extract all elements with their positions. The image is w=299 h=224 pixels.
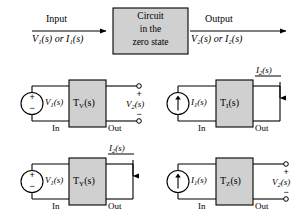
output-minus-sign-tz: −	[284, 188, 289, 197]
output-current-label-ty: I2(s)	[109, 144, 125, 155]
transfer-function-label-tv: TV(s)	[73, 98, 95, 110]
transfer-function-label-tz: TZ(s)	[220, 176, 241, 188]
output-terminal-top-tv	[137, 84, 142, 89]
output-plus-sign-tz: +	[284, 168, 289, 177]
source-label-ty: V1(s)	[45, 176, 63, 187]
output-terminal-bottom-tv	[137, 119, 142, 124]
input-label: Input	[46, 14, 67, 24]
output-terminal-top-tz	[284, 162, 289, 167]
source-minus-sign-tv: −	[30, 104, 35, 113]
out-label-ty: Out	[108, 202, 122, 211]
out-label-tv: Out	[108, 124, 122, 133]
out-label-tz: Out	[255, 202, 269, 211]
circuit-box-line3: zero state	[117, 38, 184, 48]
output-minus-sign-tv: −	[137, 110, 142, 119]
input-variables-label: V₁(s) or I₁(s)	[32, 34, 83, 44]
out-label-ti: Out	[255, 124, 269, 133]
output-label: Output	[205, 14, 233, 24]
transfer-function-label-ti: TI(s)	[220, 98, 239, 110]
circuit-box-line2: in the	[117, 25, 184, 35]
circuit-figure: Circuit in the zero state Input V₁(s) or…	[0, 0, 299, 224]
output-current-label-ti: I2(s)	[256, 66, 272, 77]
output-plus-sign-tv: +	[137, 90, 142, 99]
circuit-box-line1: Circuit	[117, 12, 184, 22]
source-plus-sign-tv: +	[30, 93, 35, 102]
in-label-ty: In	[52, 202, 60, 211]
source-label-ti: I1(s)	[191, 98, 207, 109]
source-label-tv: V1(s)	[45, 98, 63, 109]
source-minus-sign-ty: −	[30, 182, 35, 191]
in-label-ti: In	[198, 124, 206, 133]
output-variables-label: V₂(s) or I₂(s)	[191, 34, 242, 44]
source-plus-sign-ty: +	[30, 171, 35, 180]
output-terminal-bottom-tz	[284, 197, 289, 202]
in-label-tz: In	[198, 202, 206, 211]
in-label-tv: In	[52, 124, 60, 133]
source-label-tz: I1(s)	[191, 176, 207, 187]
transfer-function-label-ty: TY(s)	[73, 176, 95, 188]
